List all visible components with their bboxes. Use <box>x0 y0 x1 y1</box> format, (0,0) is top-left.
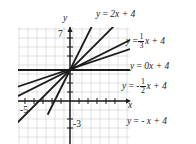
fraction-denominator: 2 <box>140 86 146 95</box>
axes <box>18 27 126 144</box>
eq-lhs: y <box>127 116 131 126</box>
equation-label-slope-neg-half: y = -12x + 4 <box>122 78 167 96</box>
x-axis-label: x <box>128 101 132 111</box>
equation-label-slope-one-third: y =13x + 4 <box>126 33 165 51</box>
eq-body: 2x + 4 <box>110 9 135 19</box>
y-axis-arrow <box>67 27 72 32</box>
fraction-denominator: 3 <box>138 41 144 50</box>
eq-lhs: y <box>122 81 126 91</box>
equation-label-slope-2: y = 2x + 4 <box>96 10 135 20</box>
y-tick-label-neg3: -3 <box>73 120 81 130</box>
eq-sign: = <box>103 9 108 19</box>
eq-sign: = <box>137 61 142 71</box>
y-axis-label: y <box>63 14 67 24</box>
y-tick-label-7: 7 <box>58 30 63 40</box>
equation-label-slope-neg-one: y = - x + 4 <box>127 117 167 127</box>
x-tick-label-neg5: -5 <box>20 106 28 116</box>
plotted-lines <box>14 18 130 122</box>
eq-tail: x + 4 <box>145 36 165 46</box>
fraction-numerator: 1 <box>138 33 144 41</box>
eq-sign: = <box>134 116 139 126</box>
equation-label-slope-zero: y = 0x + 4 <box>130 62 169 72</box>
eq-body: 0x + 4 <box>144 61 169 71</box>
eq-lhs: y <box>96 9 100 19</box>
eq-sign: = <box>133 36 138 46</box>
eq-sign: = <box>129 81 134 91</box>
eq-tail: x + 4 <box>147 81 167 91</box>
fraction-numerator: 1 <box>140 78 146 86</box>
eq-lhs: y <box>130 61 134 71</box>
eq-body: - x + 4 <box>141 116 167 126</box>
graph-figure: y x 7 -5 -3 y = 2x + 4 y =13x + 4 y = 0x… <box>0 0 196 144</box>
fraction-one-third: 13 <box>138 33 144 51</box>
eq-lhs: y <box>126 36 130 46</box>
fraction-one-half: 12 <box>140 78 146 96</box>
